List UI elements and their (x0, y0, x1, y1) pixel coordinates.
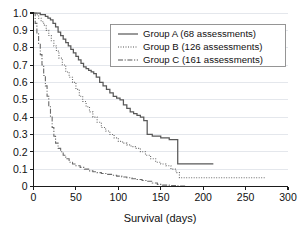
y-tick-label: 0.9 (13, 24, 28, 36)
y-tick-label: 0.1 (13, 163, 28, 175)
x-tick-label: 300 (279, 191, 297, 203)
y-tick-label: 0.7 (13, 59, 28, 71)
y-tick-label: 0.6 (13, 76, 28, 88)
legend-label-c: Group C (161 assessments) (143, 54, 263, 65)
legend-label-b: Group B (126 assessments) (143, 41, 262, 52)
y-tick-label: 0.4 (13, 111, 28, 123)
y-axis-ticks: 00.10.20.30.40.50.60.70.80.91.0 (13, 7, 34, 193)
y-tick-label: 1.0 (13, 7, 28, 19)
y-tick-label: 0.5 (13, 93, 28, 105)
chart-legend: Group A (68 assessments)Group B (126 ass… (111, 25, 286, 67)
x-tick-label: 0 (31, 191, 37, 203)
y-tick-label: 0.2 (13, 146, 28, 158)
x-tick-label: 150 (152, 191, 170, 203)
y-tick-label: 0.8 (13, 41, 28, 53)
x-axis-title: Survival (days) (124, 212, 197, 224)
x-tick-label: 50 (70, 191, 82, 203)
x-axis-ticks: 050100150200250300 (31, 187, 297, 204)
chart-canvas: 00.10.20.30.40.50.60.70.80.91.0 05010015… (0, 0, 300, 231)
y-tick-label: 0 (22, 180, 28, 192)
x-tick-label: 200 (194, 191, 212, 203)
survival-chart: 00.10.20.30.40.50.60.70.80.91.0 05010015… (0, 0, 300, 231)
y-tick-label: 0.3 (13, 128, 28, 140)
x-tick-label: 250 (237, 191, 255, 203)
x-tick-label: 100 (110, 191, 128, 203)
legend-label-a: Group A (68 assessments) (143, 28, 256, 39)
